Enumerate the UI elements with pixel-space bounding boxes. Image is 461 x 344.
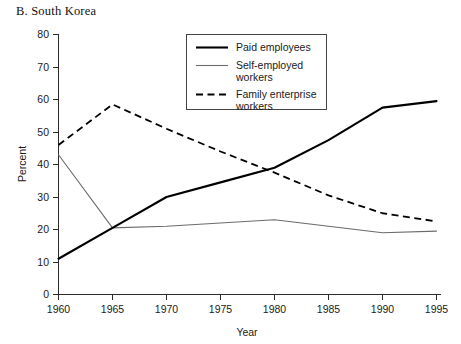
y-tick-label-60: 60 bbox=[37, 93, 49, 105]
x-tick-label-1975: 1975 bbox=[209, 303, 233, 315]
series-line-family-enterprise-workers bbox=[59, 104, 437, 221]
y-tick-label-40: 40 bbox=[37, 158, 49, 170]
legend-label-paid-employees: Paid employees bbox=[236, 41, 311, 53]
x-axis-title: Year bbox=[236, 326, 258, 338]
y-tick-label-70: 70 bbox=[37, 61, 49, 73]
line-chart-svg: 0 10 20 30 40 50 60 70 80 1960 1965 1970… bbox=[0, 0, 461, 344]
y-tick-label-0: 0 bbox=[43, 288, 49, 300]
chart-figure: B. South Korea 0 10 20 30 40 50 60 70 bbox=[0, 0, 461, 344]
y-tick-label-30: 30 bbox=[37, 191, 49, 203]
series-line-self-employed-workers bbox=[59, 155, 437, 233]
chart-legend: Paid employees Self-employed workers Fam… bbox=[187, 35, 327, 113]
legend-label-self-employed-workers-line2: workers bbox=[235, 71, 273, 83]
x-tick-label-1980: 1980 bbox=[263, 303, 287, 315]
x-axis-ticks: 1960 1965 1970 1975 1980 1985 1990 1995 bbox=[47, 295, 449, 315]
y-tick-label-10: 10 bbox=[37, 256, 49, 268]
y-tick-label-20: 20 bbox=[37, 223, 49, 235]
y-tick-label-50: 50 bbox=[37, 126, 49, 138]
x-tick-label-1985: 1985 bbox=[317, 303, 341, 315]
legend-label-family-enterprise-workers-line1: Family enterprise bbox=[236, 88, 317, 100]
legend-label-family-enterprise-workers-line2: workers bbox=[235, 100, 273, 112]
legend-label-self-employed-workers-line1: Self-employed bbox=[236, 59, 303, 71]
y-axis-title: Percent bbox=[16, 146, 28, 182]
series-group bbox=[59, 101, 437, 259]
x-tick-label-1960: 1960 bbox=[47, 303, 71, 315]
x-tick-label-1990: 1990 bbox=[371, 303, 395, 315]
y-tick-label-80: 80 bbox=[37, 28, 49, 40]
x-tick-label-1995: 1995 bbox=[425, 303, 449, 315]
y-axis-ticks: 0 10 20 30 40 50 60 70 80 bbox=[37, 28, 58, 300]
x-tick-label-1970: 1970 bbox=[155, 303, 179, 315]
series-line-paid-employees bbox=[59, 101, 437, 259]
x-tick-label-1965: 1965 bbox=[101, 303, 125, 315]
page-title: B. South Korea bbox=[16, 4, 96, 19]
